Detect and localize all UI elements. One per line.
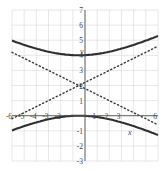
x-axis-label: x: [127, 128, 132, 137]
y-tick-label: 1: [79, 97, 83, 106]
x-tick-label: -5: [18, 112, 24, 121]
hyperbola-graph: -6-5-4-3-21236-3-2-11234567 y x: [0, 0, 168, 171]
y-tick-label: -3: [77, 157, 83, 166]
x-tick-label: -2: [55, 112, 61, 121]
y-tick-label: 7: [79, 6, 83, 15]
x-tick-label: -6: [6, 112, 12, 121]
y-tick-label: 6: [79, 21, 83, 30]
x-tick-label: 6: [153, 112, 157, 121]
y-tick-label: 3: [79, 66, 83, 75]
y-tick-label: -2: [77, 142, 83, 151]
tick-labels: -6-5-4-3-21236-3-2-11234567: [6, 6, 157, 166]
x-tick-label: 3: [117, 112, 121, 121]
y-tick-label: 2: [79, 82, 83, 91]
x-tick-label: 2: [104, 112, 108, 121]
x-tick-label: 1: [92, 112, 96, 121]
x-tick-label: -3: [42, 112, 48, 121]
x-tick-label: -4: [30, 112, 36, 121]
y-tick-label: -1: [77, 127, 83, 136]
y-axis-label: y: [79, 47, 84, 56]
y-tick-label: 5: [79, 36, 83, 45]
